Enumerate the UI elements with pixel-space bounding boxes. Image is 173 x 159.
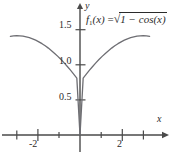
x-axis-label: x [157,114,161,124]
y-tick-label-1-5: 1.5 [59,20,72,30]
y-axis-label: y [85,1,89,11]
y-tick-label-0-5: 0.5 [59,92,72,102]
function-annotation: f1(x) =√1 − cos(x) [86,13,167,27]
y-tick-label-1-0: 1.0 [59,56,72,66]
radicand-expression: 1 − cos(x) [119,12,166,25]
function-plot-figure: 1.5 1.0 0.5 -2 2 x y f1(x) =√1 − cos(x) [0,0,173,159]
x-tick-label-neg-2: -2 [29,139,37,149]
x-tick-label-pos-2: 2 [117,139,122,149]
function-argument: (x) [93,13,105,25]
